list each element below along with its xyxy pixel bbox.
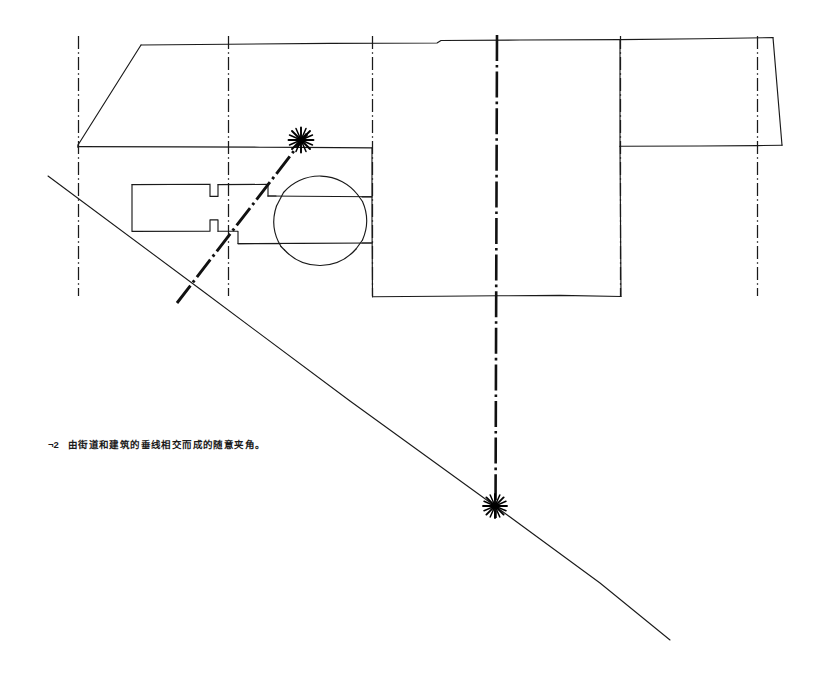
- building-left-bottom-run: [218, 231, 372, 243]
- plaza-opening-left-bottom-stub: [281, 247, 285, 251]
- plaza-arc-bottom: [285, 249, 357, 265]
- plaza-opening-right-top-stub: [358, 195, 363, 202]
- intersection-node-lower: [483, 494, 507, 518]
- plaza-arc-right: [363, 202, 367, 241]
- building-left-bottom: [132, 185, 218, 232]
- plaza-opening-right-bottom-stub: [356, 240, 363, 249]
- diagonal-dash-dot-axis: [177, 134, 307, 303]
- caption-marker: ¬2: [48, 439, 59, 450]
- building-left-step-run: [268, 196, 372, 197]
- block-edge-mid-left: [78, 147, 372, 148]
- main-center-axis: [496, 35, 498, 518]
- figure-root: ¬2 由街道和建筑的垂线相交而成的随意夹角。: [0, 0, 821, 681]
- centerline-axis-main: [496, 35, 498, 518]
- block-outlines: [78, 38, 782, 297]
- building-left-outline: [132, 184, 218, 196]
- block-edge-right-terminus: [773, 38, 782, 146]
- block-edge-top: [141, 38, 773, 45]
- diagonal-axis-group: [177, 134, 307, 303]
- caption-text: 由街道和建筑的垂线相交而成的随意夹角。: [68, 437, 266, 451]
- plaza-arc-left: [274, 206, 281, 247]
- figure-caption: ¬2 由街道和建筑的垂线相交而成的随意夹角。: [48, 437, 265, 451]
- intersection-node-upper: [289, 128, 314, 153]
- plaza-opening-top-left-stub: [277, 193, 284, 207]
- street-centerlines: [79, 36, 758, 296]
- site-plan-drawing: [0, 0, 821, 681]
- block-edge-chamfer-upper-left: [78, 45, 141, 145]
- plaza-arc-top: [284, 176, 358, 194]
